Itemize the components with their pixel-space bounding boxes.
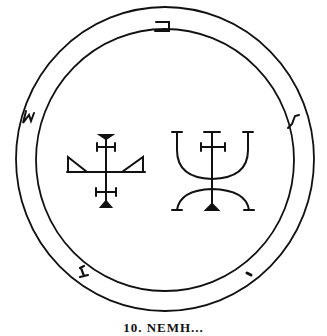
right-glyph-icon — [288, 115, 299, 128]
bottom-right-glyph-icon — [247, 273, 251, 275]
right-symbol-icon — [172, 132, 254, 210]
figure-caption: 10. NEMH... — [0, 320, 327, 336]
bottom-left-glyph-icon — [80, 266, 88, 277]
inner-circle — [36, 29, 294, 291]
left-glyph-icon — [23, 111, 34, 123]
outer-circle — [16, 7, 314, 311]
left-symbol-icon — [67, 135, 145, 207]
